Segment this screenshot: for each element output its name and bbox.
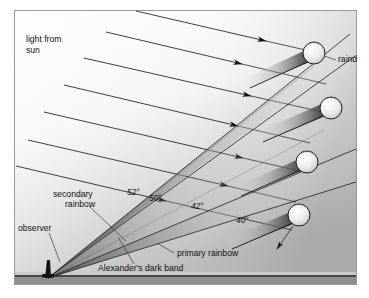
label-secondary-rainbow-line2: rainbow [65,199,96,209]
label-raindrops: raindrops [338,54,357,64]
label-light-from-sun-line2: sun [26,45,40,55]
raindrop [296,151,318,173]
label-alexanders-dark-band: Alexander's dark band [98,263,183,273]
angle-50: 50° [149,193,162,203]
raindrop [303,42,325,64]
label-secondary-rainbow-line1: secondary [53,189,93,199]
angle-40: 40° [236,215,249,225]
raindrop [288,204,310,226]
diagram-stage: light from sun raindrops secondary rainb… [0,0,369,298]
figure-frame: light from sun raindrops secondary rainb… [14,10,357,285]
label-observer: observer [18,223,52,233]
ground [15,272,356,284]
raindrop [320,97,342,119]
angle-42: 42° [191,201,204,211]
rainbow-diagram-svg: light from sun raindrops secondary rainb… [14,10,357,285]
label-light-from-sun-line1: light from [26,34,61,44]
angle-52: 52° [127,187,140,197]
label-primary-rainbow: primary rainbow [177,248,239,258]
